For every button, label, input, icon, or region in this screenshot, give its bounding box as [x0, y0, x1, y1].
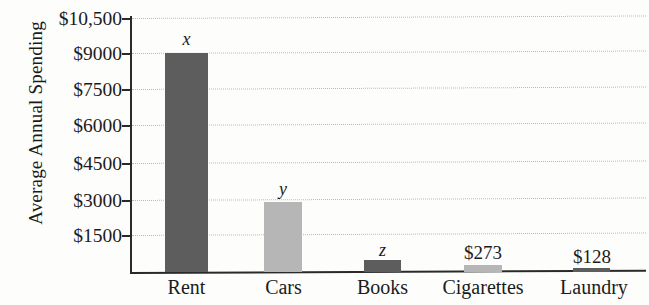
y-axis-tick-4500 — [122, 163, 132, 165]
plot-area: x y z $273 $128 Rent Cars Books Cigarett… — [130, 0, 649, 305]
gridline-10500 — [132, 15, 646, 19]
bar-laundry — [573, 268, 610, 272]
bar-cigarettes — [464, 265, 502, 272]
y-axis-tick-1500 — [122, 235, 132, 237]
y-tick-label-4500: $4500 — [12, 154, 122, 174]
x-tick-label-books: Books — [345, 277, 420, 297]
y-axis-tick-9000 — [122, 53, 132, 55]
bar-value-books: z — [364, 241, 401, 259]
gridline-1500 — [132, 232, 646, 236]
x-tick-label-cars: Cars — [246, 277, 321, 297]
bar-value-rent: x — [165, 30, 208, 48]
x-tick-label-rent: Rent — [149, 277, 224, 297]
y-axis-tick-3000 — [122, 200, 132, 202]
y-tick-label-6000: $6000 — [12, 116, 122, 136]
bar-cars — [264, 202, 302, 272]
bar-value-cigarettes: $273 — [446, 243, 520, 262]
gridline-9000 — [132, 50, 646, 54]
bar-value-cars: y — [264, 180, 302, 198]
y-tick-label-7500: $7500 — [12, 80, 122, 100]
gridline-6000 — [132, 122, 646, 126]
y-axis-tick-labels: $10,500 $9000 $7500 $6000 $4500 $3000 $1… — [8, 0, 122, 305]
gridline-3000 — [132, 197, 646, 201]
y-tick-label-3000: $3000 — [12, 191, 122, 211]
gridline-4500 — [132, 160, 646, 164]
y-tick-label-10500: $10,500 — [12, 9, 122, 29]
x-tick-label-cigarettes: Cigarettes — [425, 277, 541, 297]
bar-chart: Average Annual Spending $10,500 $9000 $7… — [0, 0, 649, 305]
y-axis-tick-6000 — [122, 125, 132, 127]
gridline-7500 — [132, 86, 646, 90]
y-tick-label-9000: $9000 — [12, 44, 122, 64]
y-axis-tick-7500 — [122, 89, 132, 91]
bar-value-laundry: $128 — [555, 247, 629, 266]
x-tick-label-laundry: Laundry — [544, 277, 644, 297]
y-axis-tick-10500 — [122, 18, 132, 20]
y-tick-label-1500: $1500 — [12, 226, 122, 246]
bar-rent — [165, 53, 208, 272]
bar-books — [364, 260, 401, 272]
